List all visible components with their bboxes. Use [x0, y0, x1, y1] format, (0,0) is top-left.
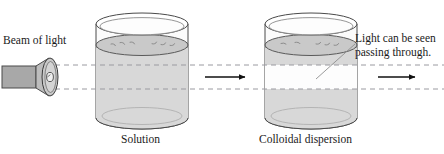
visible-light-beam-band	[263, 65, 359, 89]
light-visible-annotation: Light can be seen passing through.	[355, 31, 436, 59]
flashlight	[2, 58, 58, 96]
light-visible-annotation-line1: Light can be seen	[355, 31, 436, 45]
beam-of-light-label: Beam of light	[3, 34, 66, 48]
beaker-colloidal-dispersion	[263, 13, 359, 130]
lamp-barrel	[2, 66, 36, 88]
caption-solution: Solution	[121, 133, 160, 147]
beaker-solution	[94, 13, 190, 130]
beaker-rim-inner	[269, 18, 353, 35]
caption-colloidal-dispersion: Colloidal dispersion	[259, 133, 352, 147]
tyndall-effect-figure: Beam of light Solution Colloidal dispers…	[0, 0, 444, 154]
light-visible-annotation-line2: passing through.	[355, 45, 436, 59]
liquid-surface	[265, 35, 357, 56]
figure-illustration	[0, 0, 444, 154]
beaker-rim-inner	[100, 18, 184, 35]
